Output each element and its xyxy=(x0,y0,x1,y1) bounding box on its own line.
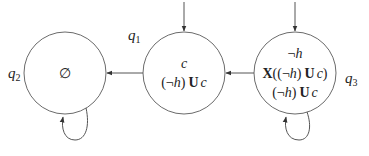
state-label-q2: q2 xyxy=(8,65,21,83)
q3-formula-until: (¬h)Uc xyxy=(272,85,318,101)
q2-formula-empty: ∅ xyxy=(59,66,71,81)
state-label-q1: q1 xyxy=(128,27,141,45)
self-loop-q3 xyxy=(285,112,309,140)
q1-formula-c: c xyxy=(181,56,188,71)
q3-formula-not-h: ¬h xyxy=(288,46,303,61)
q3-formula-next-until: X((¬h)Uc) xyxy=(262,66,327,82)
automaton-diagram: q2 q1 q3 ∅ c (¬h)Uc ¬h X((¬h)Uc) (¬h)Uc xyxy=(0,0,369,156)
q1-formula-until: (¬h)Uc xyxy=(161,75,207,91)
state-label-q3: q3 xyxy=(345,70,358,88)
state-q1 xyxy=(143,32,225,114)
